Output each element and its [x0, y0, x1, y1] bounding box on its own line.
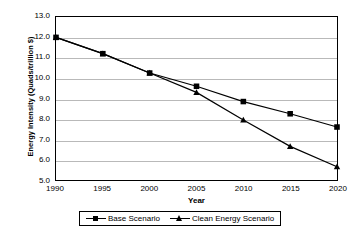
series-layer [56, 17, 337, 180]
legend-square-marker-icon [86, 214, 106, 223]
x-tick-label: 2010 [224, 184, 264, 194]
x-tick-label: 2015 [271, 184, 311, 194]
data-point-marker [241, 99, 247, 105]
x-axis-tick-labels: 1990199520002005201020152020 [55, 184, 338, 196]
x-tick-label: 2000 [129, 184, 169, 194]
x-tick-label: 2020 [318, 184, 358, 194]
legend-entry[interactable]: Clean Energy Scenario [170, 214, 274, 223]
legend-triangle-marker-icon [170, 214, 190, 223]
legend-label: Base Scenario [108, 215, 160, 223]
data-point-marker [334, 164, 340, 170]
plot-area [55, 16, 338, 181]
chart-legend: Base ScenarioClean Energy Scenario [79, 211, 281, 226]
data-point-marker [287, 111, 293, 117]
series-line [56, 37, 337, 166]
y-tick-label: 11.0 [18, 53, 50, 61]
data-point-marker [240, 117, 246, 123]
y-tick-label: 8.0 [18, 115, 50, 123]
x-tick-label: 2005 [177, 184, 217, 194]
y-tick-label: 12.0 [18, 33, 50, 41]
energy-intensity-chart: Energy Intensity (Quads/trillion $) 13.0… [0, 0, 359, 240]
data-point-marker [194, 84, 200, 90]
y-tick-label: 6.0 [18, 156, 50, 164]
legend-marker [176, 215, 182, 221]
x-tick-label: 1990 [35, 184, 75, 194]
data-point-marker [287, 143, 293, 149]
x-axis-title: Year [55, 196, 338, 205]
series-line [56, 37, 337, 127]
y-tick-label: 13.0 [18, 12, 50, 20]
y-tick-label: 10.0 [18, 74, 50, 82]
x-tick-label: 1995 [82, 184, 122, 194]
y-tick-label: 9.0 [18, 95, 50, 103]
data-point-marker [334, 124, 340, 130]
legend-marker [93, 216, 98, 221]
y-axis-tick-labels: 13.012.011.010.09.08.07.06.05.0 [18, 10, 50, 186]
legend-label: Clean Energy Scenario [192, 215, 274, 223]
legend-entry[interactable]: Base Scenario [86, 214, 160, 223]
y-tick-label: 7.0 [18, 136, 50, 144]
